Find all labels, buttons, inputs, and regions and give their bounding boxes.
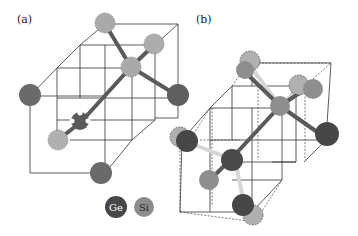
panel-a: (a)	[17, 13, 189, 184]
si-atom	[95, 13, 115, 33]
panel-b: (b)	[170, 13, 339, 225]
figure: (a)	[0, 0, 358, 236]
ge-atom	[315, 122, 339, 146]
si-atom	[303, 79, 323, 99]
ge-atom	[221, 149, 243, 171]
si-atom	[199, 170, 219, 190]
si-atom	[236, 61, 254, 79]
ge-atom	[90, 162, 112, 184]
legend-ge-label: Ge	[109, 202, 123, 213]
legend: Ge Si	[105, 196, 154, 218]
ge-atom	[19, 84, 41, 106]
si-atom	[48, 130, 68, 150]
panel-b-label: (b)	[196, 13, 212, 26]
ge-atom	[176, 130, 198, 152]
ge-atom	[232, 194, 254, 216]
panel-a-label: (a)	[17, 13, 32, 26]
si-atom	[121, 57, 141, 77]
crystal-structure-diagram: (a)	[0, 0, 358, 236]
si-atom	[270, 96, 290, 116]
legend-si-label: Si	[139, 202, 149, 213]
si-atom	[144, 34, 164, 54]
ge-atom	[167, 84, 189, 106]
